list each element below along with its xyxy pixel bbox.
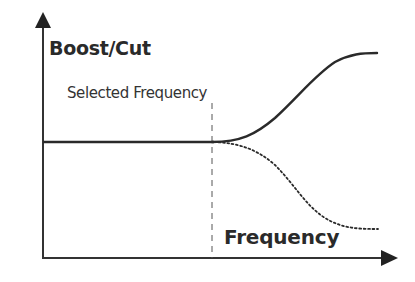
selected-frequency-label: Selected Frequency — [67, 86, 207, 101]
x-axis-label: Frequency — [224, 227, 339, 247]
y-axis-arrowhead-icon — [35, 12, 51, 28]
boost-curve — [212, 53, 377, 142]
y-axis-label: Boost/Cut — [49, 39, 151, 58]
x-axis-arrowhead-icon — [381, 250, 398, 266]
cut-curve — [214, 142, 378, 229]
